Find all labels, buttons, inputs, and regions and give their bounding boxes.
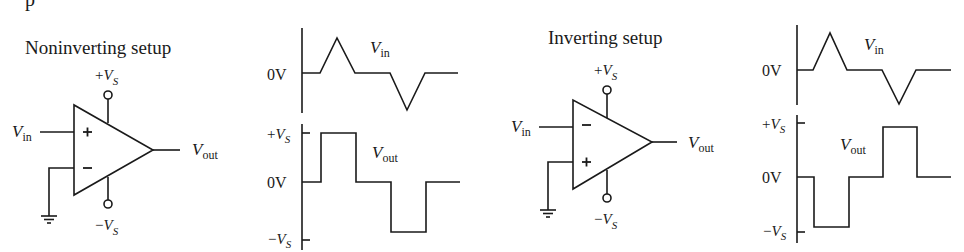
noninv-chart-vout-label: Vout bbox=[372, 143, 398, 165]
pos-supply-terminal-icon bbox=[603, 86, 611, 94]
inv-chart-vout-label: Vout bbox=[840, 135, 866, 157]
noninverting-waveforms bbox=[302, 28, 460, 250]
vout-waveform bbox=[797, 127, 951, 227]
inv-neg-vs-label: −VS bbox=[763, 223, 787, 242]
inv-pos-vs-label: +VS bbox=[762, 116, 786, 135]
inverting-waveforms bbox=[797, 25, 951, 243]
noninverting-opamp bbox=[40, 91, 180, 223]
inv-plus-sign-icon bbox=[582, 158, 591, 167]
inv-vin-zero-label: 0V bbox=[762, 62, 782, 79]
inv-pos-supply-label: +VS bbox=[594, 62, 618, 82]
noninverting-title: Noninverting setup bbox=[25, 37, 171, 58]
inverting-opamp bbox=[539, 86, 677, 217]
opamp-comparator-diagram: p Noninverting setup +VS −VS Vin Vout 0V… bbox=[0, 0, 964, 252]
noninv-neg-supply-label: −VS bbox=[95, 217, 119, 237]
noninv-vout-zero-label: 0V bbox=[267, 174, 287, 191]
noninv-plus-sign-icon bbox=[83, 128, 92, 137]
opamp-triangle-icon bbox=[74, 105, 153, 195]
noninv-chart-vin-label: Vin bbox=[370, 38, 390, 60]
inv-neg-supply-label: −VS bbox=[594, 211, 618, 231]
inv-vout-label: Vout bbox=[688, 133, 714, 155]
ground-icon bbox=[41, 216, 57, 223]
inv-vout-zero-label: 0V bbox=[762, 169, 782, 186]
neg-supply-terminal-icon bbox=[104, 200, 112, 208]
inv-chart-vin-label: Vin bbox=[864, 35, 884, 57]
noninv-vin-zero-label: 0V bbox=[267, 66, 287, 83]
ground-icon bbox=[540, 210, 556, 217]
ground-wire bbox=[548, 162, 573, 210]
neg-supply-terminal-icon bbox=[603, 194, 611, 202]
ground-wire bbox=[49, 168, 74, 216]
noninv-vin-label: Vin bbox=[12, 122, 32, 144]
noninv-pos-supply-label: +VS bbox=[95, 67, 119, 87]
noninv-pos-vs-label: +VS bbox=[267, 126, 291, 145]
cut-off-heading: p bbox=[25, 0, 35, 11]
noninv-vout-label: Vout bbox=[192, 140, 218, 162]
noninv-neg-vs-label: −VS bbox=[268, 231, 292, 250]
pos-supply-terminal-icon bbox=[104, 91, 112, 99]
opamp-triangle-icon bbox=[573, 100, 652, 189]
inverting-title: Inverting setup bbox=[548, 27, 663, 48]
inv-vin-label: Vin bbox=[511, 117, 531, 139]
